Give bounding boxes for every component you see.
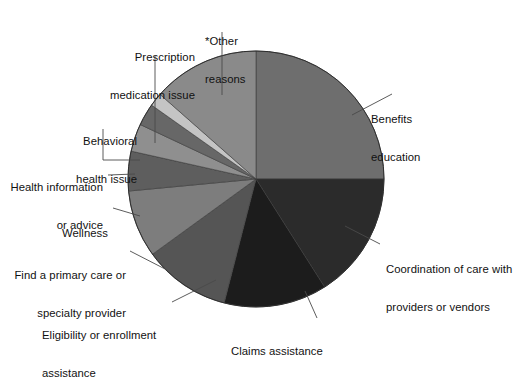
label-behavioral-health-line1: Behavioral (0, 135, 137, 148)
label-coordination-of-care: Coordination of care with providers or v… (386, 238, 512, 339)
label-prescription-medication-line2: medication issue (0, 89, 195, 102)
label-other-reasons-line2: reasons (205, 73, 246, 86)
label-coordination-of-care-line1: Coordination of care with (386, 263, 512, 276)
pie-slice-benefits-education[interactable]: Benefits education (256, 51, 384, 179)
label-claims-assistance: Claims assistance (231, 320, 323, 381)
label-claims-assistance-line1: Claims assistance (231, 345, 323, 358)
label-behavioral-health-line2: health issue (0, 173, 137, 186)
label-coordination-of-care-line2: providers or vendors (386, 301, 512, 314)
label-benefits-education: Benefits education (371, 88, 420, 189)
label-prescription-medication: Prescription medication issue (0, 26, 195, 127)
label-health-information-line2: or advice (0, 219, 103, 232)
label-find-provider-line2: specialty provider (0, 307, 126, 320)
label-benefits-education-line2: education (371, 151, 420, 164)
label-other-reasons-line1: *Other (205, 35, 246, 48)
label-prescription-medication-line1: Prescription (0, 51, 195, 64)
label-eligibility-enrollment-line2: assistance (42, 367, 156, 380)
label-benefits-education-line1: Benefits (371, 113, 420, 126)
label-find-provider-line1: Find a primary care or (0, 269, 126, 282)
label-other-reasons: *Other reasons (205, 10, 246, 111)
